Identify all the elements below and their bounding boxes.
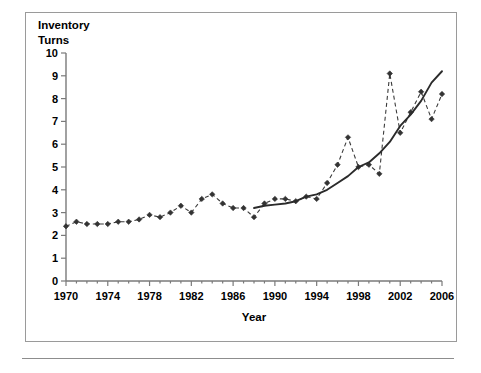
x-tick-label: 1994 [304,290,329,302]
x-tick-label: 1998 [346,290,370,302]
data-point-marker [314,196,319,201]
data-point-marker [345,135,350,140]
data-point-marker [147,212,152,217]
x-tick-label: 1990 [263,290,287,302]
data-point-marker [398,130,403,135]
chart-page: 0123456789101970197419781982198619901994… [0,0,481,373]
x-axis-title: Year [242,311,267,323]
data-point-marker [251,214,256,219]
data-point-marker [387,71,392,76]
chart-frame: 0123456789101970197419781982198619901994… [25,12,457,342]
y-tick-label: 10 [46,47,58,59]
data-point-marker [439,91,444,96]
data-point-marker [168,210,173,215]
data-point-marker [283,196,288,201]
data-point-marker [105,221,110,226]
data-point-marker [157,214,162,219]
data-point-marker [429,116,434,121]
data-point-marker [63,224,68,229]
y-axis-title-line1: Inventory [38,19,90,31]
data-point-marker [95,221,100,226]
y-axis-title-line2: Turns [38,34,69,46]
data-point-marker [241,205,246,210]
series-line-dashed [66,74,442,227]
data-point-marker [418,89,423,94]
data-point-marker [377,171,382,176]
y-tick-label: 0 [52,275,58,287]
y-tick-label: 6 [52,138,58,150]
y-tick-label: 1 [52,252,58,264]
x-tick-label: 2002 [388,290,412,302]
data-point-marker [335,162,340,167]
x-tick-label: 2006 [430,290,454,302]
data-point-marker [84,221,89,226]
y-tick-label: 8 [52,93,58,105]
data-point-marker [220,201,225,206]
data-point-marker [178,203,183,208]
inventory-turns-chart: 0123456789101970197419781982198619901994… [26,13,456,341]
x-tick-label: 1986 [221,290,245,302]
data-point-marker [324,180,329,185]
y-tick-label: 5 [52,161,58,173]
y-tick-label: 3 [52,207,58,219]
data-point-marker [136,217,141,222]
data-point-marker [74,219,79,224]
data-point-marker [116,219,121,224]
data-point-marker [272,196,277,201]
x-tick-label: 1970 [54,290,78,302]
y-tick-label: 7 [52,115,58,127]
bottom-divider [22,358,454,359]
data-point-marker [126,219,131,224]
y-tick-label: 2 [52,229,58,241]
x-tick-label: 1978 [137,290,161,302]
x-tick-label: 1974 [96,290,121,302]
y-tick-label: 4 [52,184,59,196]
x-tick-label: 1982 [179,290,203,302]
y-tick-label: 9 [52,70,58,82]
data-point-marker [230,205,235,210]
